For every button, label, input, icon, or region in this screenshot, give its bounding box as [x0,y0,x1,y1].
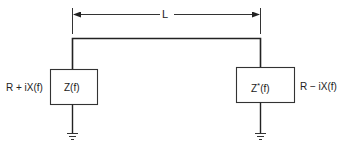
left-box-label: Z(f) [64,83,80,93]
right-side-label: R − iX(f) [300,82,337,92]
transmission-line-wire [73,39,261,70]
right-ground-icon [255,134,266,140]
left-ground-icon [67,134,78,140]
right-box-label: Z*(f) [251,82,270,94]
dimension-label: L [162,9,168,20]
left-side-label: R + iX(f) [6,83,43,93]
